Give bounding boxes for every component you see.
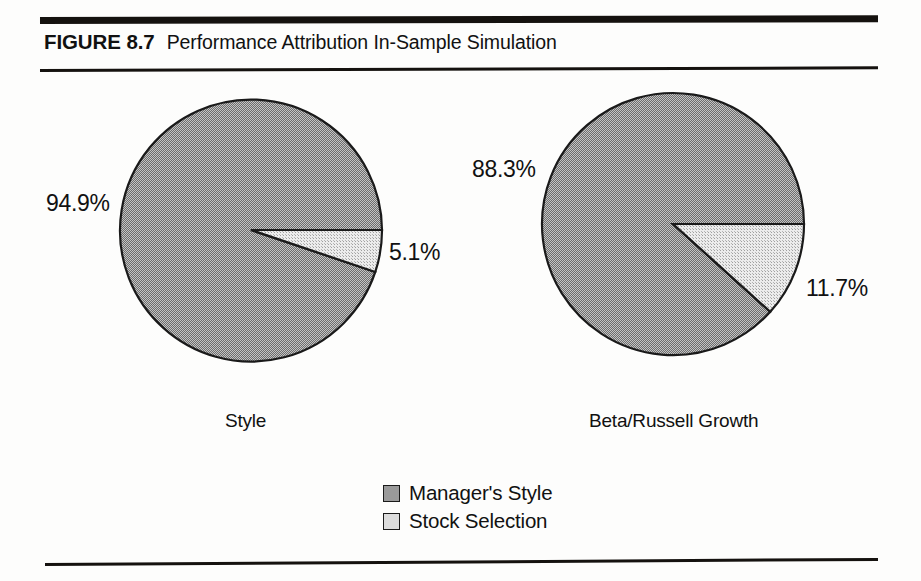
legend-item-stock-selection: Stock Selection — [383, 507, 552, 535]
pie-value-label-beta-managers-style: 88.3% — [472, 158, 536, 181]
bottom-rule — [45, 558, 878, 566]
figure-page: FIGURE 8.7Performance Attribution In-Sam… — [0, 0, 921, 581]
pie-chart-beta-russell-growth — [540, 91, 806, 357]
figure-caption: FIGURE 8.7Performance Attribution In-Sam… — [44, 32, 557, 53]
pie-chart-style — [118, 97, 384, 363]
pie-chart-beta-russell-growth-svg — [540, 91, 806, 357]
pie-caption-beta-russell-growth: Beta/Russell Growth — [589, 411, 758, 430]
caption-underline-rule — [40, 66, 878, 72]
pie-value-label-style-managers-style: 94.9% — [46, 192, 110, 215]
pie-value-label-beta-stock-selection: 11.7% — [806, 277, 868, 300]
figure-title: Performance Attribution In-Sample Simula… — [167, 31, 557, 53]
top-thick-rule — [40, 15, 878, 24]
legend-swatch-stock-selection — [383, 513, 400, 530]
legend-swatch-managers-style — [383, 485, 400, 502]
legend-label-managers-style: Manager's Style — [409, 483, 552, 504]
pie-value-label-style-stock-selection: 5.1% — [389, 241, 440, 264]
chart-legend: Manager's Style Stock Selection — [383, 479, 552, 535]
legend-label-stock-selection: Stock Selection — [409, 511, 547, 532]
legend-item-managers-style: Manager's Style — [383, 479, 552, 507]
pie-chart-style-svg — [118, 97, 384, 363]
figure-number: FIGURE 8.7 — [44, 30, 155, 53]
pie-caption-style: Style — [225, 411, 266, 430]
